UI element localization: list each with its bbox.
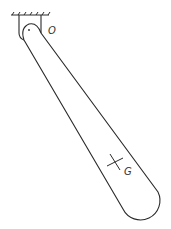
pendulum-diagram: O G [0,0,171,229]
pivot-label: O [48,25,56,36]
pivot-pin [28,29,30,31]
rod-body [23,24,160,220]
ceiling-support [11,12,50,15]
center-of-mass-label: G [124,166,132,177]
